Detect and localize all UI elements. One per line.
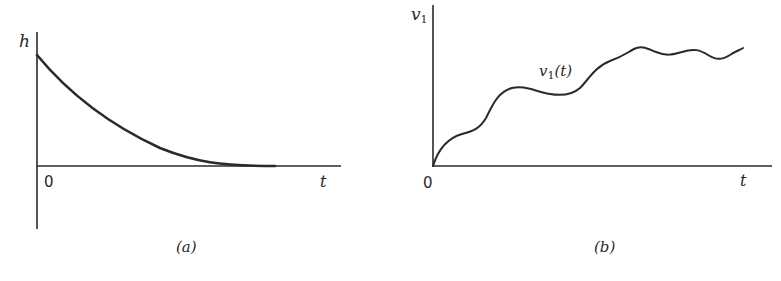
panel-b-caption: (b) (594, 240, 615, 255)
panel-b-y-axis-label: v1 (411, 6, 428, 23)
panel-a-origin-label: 0 (44, 175, 54, 190)
panel-b-v1-curve (433, 47, 743, 166)
panel-b-curve-label-sub: 1 (547, 69, 554, 82)
panel-a-y-axis-label: h (19, 33, 30, 50)
panel-a-x-axis-label: t (320, 174, 326, 190)
figure-canvas (0, 0, 781, 281)
panel-b-y-axis-label-sub: 1 (421, 13, 428, 26)
panel-b-curve-label: v1(t) (539, 64, 572, 79)
panel-a-decay-curve (37, 55, 275, 166)
panel-b-origin-label: 0 (423, 176, 433, 191)
panel-a-caption: (a) (176, 240, 197, 255)
panel-b-y-axis-label-main: v (411, 4, 421, 24)
panel-b-x-axis-label: t (740, 173, 746, 189)
panel-b-curve-label-arg: (t) (554, 62, 572, 80)
